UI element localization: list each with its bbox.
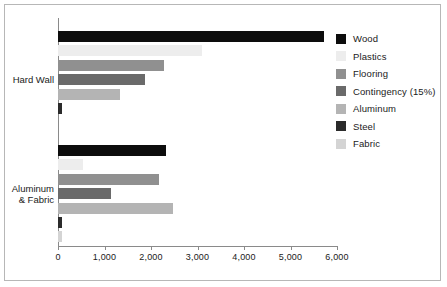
bar <box>58 203 173 214</box>
category-label: Aluminum & Fabric <box>0 183 58 205</box>
bar <box>58 159 83 170</box>
bar <box>58 145 166 156</box>
legend-swatch-icon <box>336 104 346 114</box>
legend-item-label: Wood <box>353 33 378 44</box>
legend-swatch-icon <box>336 139 346 149</box>
x-axis-tick-label: 1,000 <box>93 252 117 262</box>
legend-item[interactable]: Aluminum <box>336 100 444 118</box>
legend-item[interactable]: Fabric <box>336 135 444 153</box>
category-label: Hard Wall <box>0 74 58 85</box>
legend-item[interactable]: Plastics <box>336 48 444 66</box>
bar <box>58 231 62 242</box>
bar <box>58 89 120 100</box>
legend-item-label: Contingency (15%) <box>353 86 436 97</box>
legend-item-label: Steel <box>353 121 375 132</box>
x-axis-tick-mark <box>244 246 245 250</box>
bar <box>58 103 62 114</box>
bar <box>58 188 111 199</box>
legend-swatch-icon <box>336 121 346 131</box>
legend-swatch-icon <box>336 34 346 44</box>
bar <box>58 217 62 228</box>
chart-legend: WoodPlasticsFlooringContingency (15%)Alu… <box>336 30 444 153</box>
legend-item[interactable]: Steel <box>336 118 444 136</box>
bar-chart-figure: 01,0002,0003,0004,0005,0006,000 Hard Wal… <box>0 0 447 287</box>
bar <box>58 74 145 85</box>
legend-item[interactable]: Flooring <box>336 65 444 83</box>
legend-item-label: Flooring <box>353 68 388 79</box>
bar <box>58 31 324 42</box>
bar <box>58 174 159 185</box>
x-axis-tick-mark <box>291 246 292 250</box>
legend-swatch-icon <box>336 86 346 96</box>
legend-item[interactable]: Wood <box>336 30 444 48</box>
legend-swatch-icon <box>336 51 346 61</box>
legend-item-label: Plastics <box>353 51 387 62</box>
x-axis-tick-mark <box>337 246 338 250</box>
x-axis-tick-label: 6,000 <box>325 252 349 262</box>
x-axis-tick-label: 3,000 <box>186 252 210 262</box>
legend-item-label: Aluminum <box>353 103 396 114</box>
legend-item[interactable]: Contingency (15%) <box>336 83 444 101</box>
x-axis-tick-label: 0 <box>55 252 60 262</box>
bar <box>58 45 202 56</box>
x-axis-tick-label: 5,000 <box>279 252 303 262</box>
x-axis-tick-mark <box>151 246 152 250</box>
legend-swatch-icon <box>336 69 346 79</box>
x-axis-tick-label: 2,000 <box>139 252 163 262</box>
x-axis-tick-mark <box>105 246 106 250</box>
x-axis-tick-label: 4,000 <box>232 252 256 262</box>
x-axis-tick-mark <box>198 246 199 250</box>
legend-item-label: Fabric <box>353 138 380 149</box>
bar <box>58 60 164 71</box>
x-axis-tick-mark <box>58 246 59 250</box>
